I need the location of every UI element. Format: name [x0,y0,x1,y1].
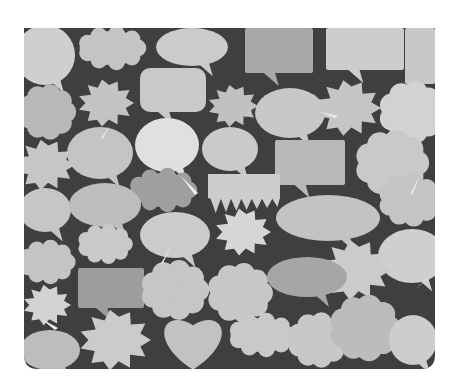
rect-bubble [326,28,404,70]
ellipse-bubble [202,127,258,171]
ellipse-bubble [19,188,71,232]
ellipse-bubble [67,127,133,179]
framed-panel [15,25,446,380]
ellipse-bubble [140,212,210,258]
rect-bubble [245,28,313,73]
ellipse-bubble [267,257,347,297]
ellipse-bubble [389,315,437,365]
rect-bubble [275,140,345,185]
rect-bubble [140,68,206,112]
ellipse-bubble [255,88,325,138]
ellipse-bubble [20,330,80,370]
ellipse-bubble [69,183,141,227]
ellipse-bubble [135,118,199,172]
rect-bubble [78,268,144,308]
ellipse-bubble [156,28,228,66]
ellipse-bubble [276,195,380,241]
collage-illustration [0,0,461,392]
rect-bubble [405,28,435,84]
speech-bubble-collage [0,0,461,392]
ellipse-bubble [15,25,75,85]
